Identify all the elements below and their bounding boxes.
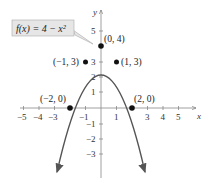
x-axis-label: x (196, 111, 201, 121)
point-right-0 (129, 105, 135, 111)
x-tick-labels: −5 −4 −3 −1 1 3 4 5 (17, 112, 181, 122)
svg-text:−5: −5 (17, 112, 27, 122)
svg-text:3: 3 (145, 112, 150, 122)
y-tick-labels: 5 3 2 1 −1 −2 −3 (86, 26, 96, 159)
label-vertex: (0, 4) (104, 34, 125, 45)
svg-text:−3: −3 (86, 149, 96, 159)
label-left-0: (−2, 0) (40, 94, 66, 105)
svg-text:5: 5 (91, 26, 96, 36)
svg-text:−1: −1 (86, 119, 96, 129)
parabola-chart: x y −5 −4 −3 −1 1 3 4 5 5 3 2 1 (0, 0, 209, 183)
svg-text:4: 4 (161, 112, 166, 122)
curve-arrow-right (143, 166, 145, 172)
svg-text:1: 1 (91, 87, 96, 97)
function-callout: f(x) = 4 − x² (12, 20, 93, 44)
point-vertex (98, 43, 104, 49)
y-axis-label: y (92, 7, 97, 17)
label-right-0: (2, 0) (134, 94, 155, 105)
point-right-3 (114, 60, 119, 65)
svg-text:−2: −2 (86, 134, 96, 144)
label-right-3: (1, 3) (121, 57, 142, 68)
svg-text:3: 3 (91, 57, 96, 67)
svg-text:−3: −3 (48, 112, 58, 122)
svg-text:5: 5 (176, 112, 181, 122)
svg-text:−4: −4 (33, 112, 43, 122)
svg-text:1: 1 (114, 112, 119, 122)
function-label: f(x) = 4 − x² (16, 23, 67, 35)
point-left-3 (83, 60, 88, 65)
curve-arrow-left (57, 166, 59, 172)
label-left-3: (−1, 3) (53, 57, 79, 68)
point-left-0 (67, 105, 73, 111)
